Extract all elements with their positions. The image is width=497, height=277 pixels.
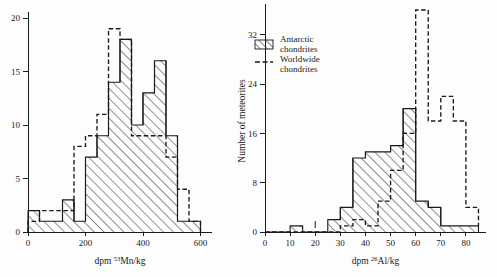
plot-area-mn53 [28,29,201,232]
histogram-bar [340,207,353,232]
histogram-bar [74,221,86,232]
x-tick-label: 0 [263,238,268,248]
histogram-bar [328,220,341,232]
x-tick-label: 60 [411,238,421,248]
histogram-bar [403,109,416,232]
series-antarctic-bars [290,109,478,232]
histogram-bar [453,226,466,232]
histogram-bar [51,221,63,232]
histogram-bar [143,93,155,232]
y-tick-label: 10 [11,120,21,130]
y-axis-title-al26: Number of meteorites [237,79,247,163]
histogram-bar [109,82,121,232]
x-tick-label: 400 [136,238,150,248]
legend-label-antarctic-line2: chondrites [280,44,318,54]
legend-swatch-antarctic [255,40,273,49]
histogram-bar [290,226,303,232]
x-axis-title-mn53: dpm 53Mn/kg [94,255,145,267]
histogram-bar [178,221,190,232]
chart-svg-mn53: 051015200200400600 dpm 53Mn/kg [0,0,232,277]
histogram-bar [86,157,98,232]
histogram-bar [120,39,132,232]
x-tick-label: 50 [386,238,396,248]
histogram-bar [132,125,144,232]
chart-panel-al26: 0816243201020304050607080 dpm 26Al/kg Nu… [232,0,497,277]
y-tick-label: 0 [16,227,21,237]
histogram-bar [40,221,52,232]
x-tick-label: 80 [461,238,471,248]
histogram-bar [63,200,75,232]
histogram-bar [391,146,404,232]
histogram-bar [189,221,201,232]
x-tick-label: 0 [26,238,31,248]
x-tick-label: 20 [311,238,321,248]
histogram-bar [166,136,178,232]
x-axis-title-al26: dpm 26Al/kg [352,255,400,267]
x-tick-label: 10 [286,238,296,248]
figure-root: 051015200200400600 dpm 53Mn/kg 081624320… [0,0,497,277]
legend-label-worldwide-line1: Worldwide [280,54,320,64]
x-tick-label: 600 [194,238,208,248]
y-tick-label: 5 [16,174,21,184]
histogram-bar [378,152,391,232]
histogram-bar [97,136,109,232]
histogram-bar [466,226,479,232]
y-tick-label: 8 [253,178,258,188]
histogram-bar [365,152,378,232]
y-tick-label: 15 [11,67,21,77]
x-tick-label: 30 [336,238,346,248]
chart-panel-mn53: 051015200200400600 dpm 53Mn/kg [0,0,232,277]
histogram-bar [353,158,366,232]
chart-svg-al26: 0816243201020304050607080 dpm 26Al/kg Nu… [232,0,497,277]
x-tick-label: 70 [436,238,446,248]
y-tick-label: 0 [253,227,258,237]
y-tick-label: 20 [11,13,21,23]
histogram-bar [155,61,167,232]
y-tick-label: 32 [248,30,257,40]
histogram-bar [441,226,454,232]
x-tick-label: 200 [79,238,93,248]
histogram-bar [428,207,441,232]
x-tick-label: 40 [361,238,371,248]
y-tick-label: 16 [248,129,258,139]
y-tick-label: 24 [248,79,258,89]
histogram-bar [416,201,429,232]
legend-label-worldwide-line2: chondrites [280,64,318,74]
legend-label-antarctic-line1: Antarctic [280,34,313,44]
